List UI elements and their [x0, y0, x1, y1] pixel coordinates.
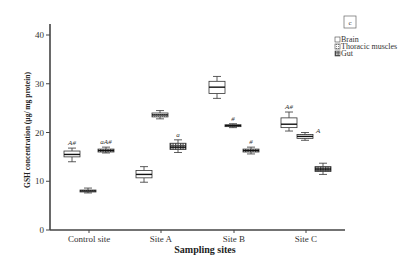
axes: 010203040 Control siteSite ASite BSite C	[35, 24, 345, 244]
box: A#	[64, 139, 80, 162]
legend-label-gut: Gut	[341, 49, 354, 58]
series-brain: A#A#	[64, 76, 297, 182]
panel-label: c	[344, 16, 356, 28]
box	[152, 111, 168, 119]
legend-swatch-brain	[335, 37, 340, 42]
box: #	[243, 138, 259, 154]
significance-annotation: A#	[67, 139, 76, 147]
box: A#	[281, 103, 297, 131]
y-tick-label: 20	[35, 128, 45, 138]
significance-annotation: a	[176, 131, 180, 139]
significance-annotation: aA#	[100, 138, 112, 146]
box	[136, 167, 152, 183]
y-ticks: 010203040	[35, 30, 50, 235]
legend-swatch-thoracic	[335, 44, 340, 49]
box: A	[297, 127, 321, 140]
series-gut: aA#a#	[98, 131, 331, 175]
box: aA#	[98, 138, 114, 153]
y-tick-label: 10	[35, 176, 45, 186]
x-tick-label: Site B	[223, 234, 245, 244]
box-plot-chart: 010203040 Control siteSite ASite BSite C…	[0, 0, 412, 268]
x-tick-label: Site A	[150, 234, 173, 244]
x-tick-label: Site C	[295, 234, 317, 244]
box	[80, 188, 96, 193]
x-ticks: Control siteSite ASite BSite C	[68, 230, 317, 244]
legend: Brain Thoracic muscles Gut	[335, 35, 397, 58]
panel-label-text: c	[348, 19, 351, 27]
x-tick-label: Control site	[68, 234, 110, 244]
x-axis-title: Sampling sites	[174, 244, 236, 255]
box	[209, 76, 225, 98]
significance-annotation: A#	[284, 103, 293, 111]
significance-annotation: #	[231, 115, 235, 123]
box	[315, 163, 331, 174]
legend-swatch-gut	[335, 51, 340, 56]
box: #	[225, 115, 241, 128]
y-axis-title: GSH concentration (µg/ mg protein)	[23, 72, 32, 188]
box-series: A#A##AaA#a#	[64, 76, 331, 193]
y-tick-label: 30	[35, 79, 45, 89]
y-tick-label: 0	[40, 225, 45, 235]
box: a	[170, 131, 186, 153]
significance-annotation: #	[249, 138, 253, 146]
significance-annotation: A	[315, 127, 321, 135]
y-tick-label: 40	[35, 30, 45, 40]
